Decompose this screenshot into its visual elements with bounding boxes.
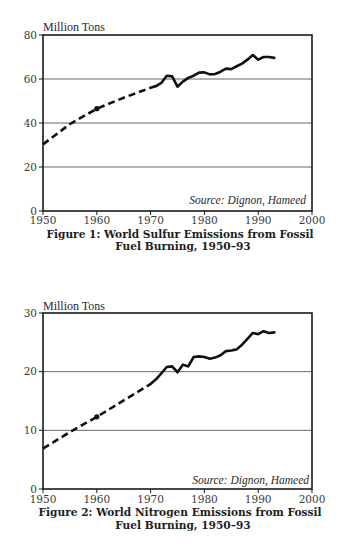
figure-1-sulfur-chart: Million Tons 020406080195019601970198019… (24, 20, 326, 252)
figure-2-caption-line-2: Fuel Burning, 1950–93 (115, 519, 250, 531)
figure-1-source: Source: Dignon, Hameed (189, 194, 306, 207)
figure-1-gridlines (43, 79, 312, 167)
figure-2-xtick-label-1950: 1950 (30, 493, 57, 505)
figure-2-source: Source: Dignon, Hameed (192, 474, 309, 487)
figure-2-caption-line-1: Figure 2: World Nitrogen Emissions from … (39, 506, 322, 518)
figure-2-xtick-label-1960: 1960 (83, 493, 110, 505)
figure-2-gridlines (43, 372, 312, 431)
figure-2-ytick-label-30: 30 (24, 307, 37, 319)
figure-1-xtick-label-2000: 2000 (299, 214, 326, 226)
figure-2-marker-1960 (94, 414, 99, 419)
figure-1-ytick-label-80: 80 (24, 29, 37, 41)
figure-1-xtick-label-1950: 1950 (30, 214, 57, 226)
figure-1-xtick-label-1980: 1980 (191, 214, 218, 226)
figure-1-xtick-label-1990: 1990 (245, 214, 272, 226)
figure-1-ylabel: Million Tons (43, 20, 105, 34)
figure-1-xtick-label-1960: 1960 (83, 214, 110, 226)
figure-1-ytick-label-60: 60 (24, 73, 37, 85)
figure-2-xtick-label-2000: 2000 (299, 493, 326, 505)
figure-1-xtick-label-1970: 1970 (137, 214, 164, 226)
figure-1-caption-line-1: Figure 1: World Sulfur Emissions from Fo… (46, 228, 313, 240)
figure-1-series-observed-line (156, 55, 274, 87)
figure-1-series-estimated-line (43, 86, 156, 144)
figure-2-series (43, 331, 274, 448)
figure-1-ytick-label-20: 20 (24, 161, 37, 173)
figure-2-xtick-label-1980: 1980 (191, 493, 218, 505)
figure-page: Million Tons 020406080195019601970198019… (0, 0, 342, 553)
figure-2-series-observed-line (151, 331, 275, 384)
figure-1-ytick-label-40: 40 (24, 117, 37, 129)
figure-2-ylabel: Million Tons (43, 299, 105, 313)
figure-1-caption-line-2: Fuel Burning, 1950–93 (115, 240, 250, 252)
figure-1-marker-1960 (94, 106, 99, 111)
figure-2-xtick-label-1970: 1970 (137, 493, 164, 505)
figure-2-ytick-label-10: 10 (24, 424, 37, 436)
figure-1-series (43, 55, 274, 144)
figure-2-nitrogen-chart: Million Tons 010203019501960197019801990… (24, 299, 326, 531)
figure-2-plot-frame (43, 313, 312, 489)
figure-2-xtick-label-1990: 1990 (245, 493, 272, 505)
figure-2-ytick-label-20: 20 (24, 365, 37, 377)
